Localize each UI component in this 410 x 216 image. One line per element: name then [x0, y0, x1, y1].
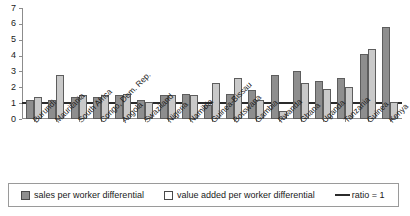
- legend-label-value-added: value added per worker differential: [177, 191, 315, 200]
- legend-item-sales: sales per worker differential: [21, 191, 144, 200]
- legend-item-value-added: value added per worker differential: [164, 191, 315, 200]
- legend-line-ratio-icon: [335, 194, 350, 196]
- y-tick-mark-2: [19, 87, 22, 88]
- legend-swatch-sales-icon: [21, 191, 30, 200]
- y-tick-label-4: 4: [3, 51, 16, 60]
- y-tick-label-1: 1: [3, 99, 16, 108]
- legend-swatch-value-added-icon: [164, 191, 173, 200]
- y-tick-mark-5: [19, 40, 22, 41]
- legend-item-ratio: ratio = 1: [335, 191, 385, 200]
- chart-legend: sales per worker differential value adde…: [8, 183, 399, 207]
- y-tick-mark-3: [19, 71, 22, 72]
- legend-label-sales: sales per worker differential: [34, 191, 144, 200]
- x-axis-category-labels: BurundiMauritaniaSouth AfricaCongo, Dem.…: [22, 119, 402, 177]
- legend-label-ratio: ratio = 1: [352, 191, 385, 200]
- y-tick-label-2: 2: [3, 83, 16, 92]
- bar-group: [23, 8, 45, 119]
- bar-sales: [315, 81, 323, 119]
- y-tick-label-3: 3: [3, 67, 16, 76]
- y-tick-label-0: 0: [3, 115, 16, 124]
- y-tick-label-6: 6: [3, 19, 16, 28]
- y-tick-mark-6: [19, 24, 22, 25]
- y-tick-label-5: 5: [3, 35, 16, 44]
- y-tick-mark-7: [19, 8, 22, 9]
- y-tick-label-7: 7: [3, 4, 16, 13]
- y-tick-mark-4: [19, 56, 22, 57]
